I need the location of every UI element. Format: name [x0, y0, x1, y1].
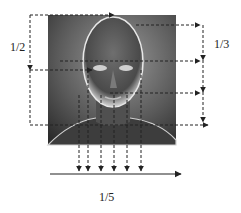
face-proportion-diagram	[0, 0, 241, 213]
label-one-fifth: 1/5	[99, 190, 114, 205]
label-one-third: 1/3	[214, 37, 229, 52]
label-one-half: 1/2	[10, 40, 25, 55]
